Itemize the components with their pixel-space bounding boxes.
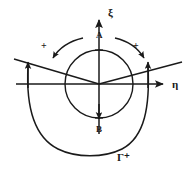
point-label-a: A xyxy=(96,31,103,40)
eta-axis-label: η xyxy=(172,79,178,90)
xi-axis-label: ξ xyxy=(108,7,113,18)
direction-arc-left xyxy=(53,38,83,58)
direction-arc-right xyxy=(115,38,144,58)
outer-contour-gamma-plus xyxy=(28,66,149,156)
branch-line-left xyxy=(14,59,99,84)
orientation-plus-left: + xyxy=(41,41,47,51)
point-label-b: B xyxy=(96,125,102,134)
orientation-plus-right: + xyxy=(133,41,139,51)
figure-canvas: ξ η A B + + Γ⁺ xyxy=(0,0,191,172)
contour-diagram-svg xyxy=(0,0,191,172)
branch-line-right xyxy=(99,62,182,84)
outer-contour-label: Γ⁺ xyxy=(117,152,130,163)
